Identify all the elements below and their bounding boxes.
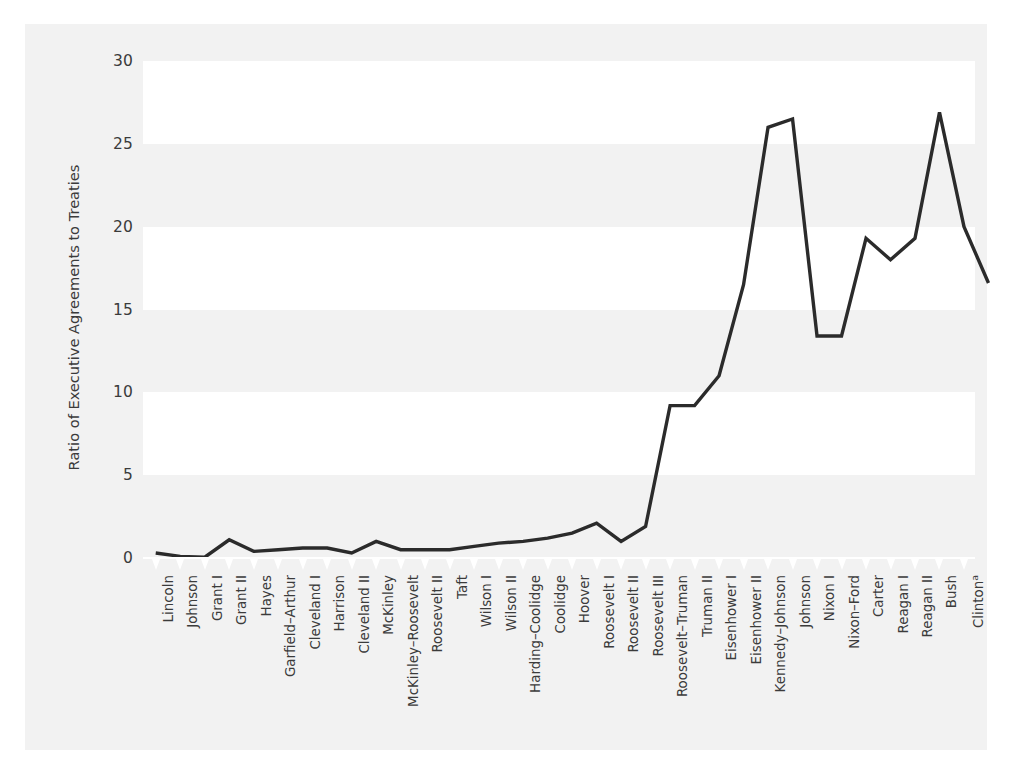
x-axis-tick-label: Cleveland I bbox=[308, 575, 323, 650]
x-axis-tick-label: Kennedy–Johnson bbox=[773, 575, 788, 692]
x-axis-tick-label: Cleveland II bbox=[357, 575, 372, 654]
x-axis-tick-label: Johnson bbox=[798, 575, 813, 628]
x-axis-tick-mark bbox=[887, 559, 895, 570]
x-axis-tick-mark bbox=[666, 559, 674, 570]
footnote-marker: a bbox=[969, 575, 980, 581]
x-axis-tick-mark bbox=[642, 559, 650, 570]
x-axis-tick-mark bbox=[960, 559, 968, 570]
x-axis-tick-mark bbox=[838, 559, 846, 570]
x-axis-tick-mark bbox=[250, 559, 258, 570]
x-axis-tick-mark bbox=[813, 559, 821, 570]
x-axis-tick-mark bbox=[544, 559, 552, 570]
x-axis-tick-label: Reagan II bbox=[920, 575, 935, 638]
x-axis-tick-mark bbox=[470, 559, 478, 570]
x-axis-tick-label: Roosevelt III bbox=[651, 575, 666, 657]
x-axis-tick-label: Eisenhower II bbox=[749, 575, 764, 664]
x-axis-tick-mark bbox=[176, 559, 184, 570]
x-axis-tick-label: McKinley–Roosevelt bbox=[406, 575, 421, 707]
y-axis-tick-label: 30 bbox=[73, 52, 133, 70]
x-axis-tick-label: Grant I bbox=[210, 575, 225, 621]
x-axis-tick-label: Bush bbox=[944, 575, 959, 608]
y-axis-tick-label: 10 bbox=[73, 383, 133, 401]
x-axis-tick-mark bbox=[935, 559, 943, 570]
x-axis-tick-mark bbox=[495, 559, 503, 570]
x-axis-tick-label: Wilson I bbox=[479, 575, 494, 627]
x-axis-tick-mark bbox=[617, 559, 625, 570]
x-axis-tick-mark bbox=[911, 559, 919, 570]
x-axis-tick-mark bbox=[274, 559, 282, 570]
x-axis-tick-label: Harding–Coolidge bbox=[528, 575, 543, 693]
x-axis-tick-label: Harrison bbox=[332, 575, 347, 631]
y-axis-tick-label: 0 bbox=[73, 549, 133, 567]
x-axis-tick-mark bbox=[715, 559, 723, 570]
x-axis-tick-label: Grant II bbox=[234, 575, 249, 625]
x-axis-tick-mark bbox=[862, 559, 870, 570]
x-axis-tick-label: Garfield–Arthur bbox=[283, 575, 298, 677]
x-axis-tick-mark bbox=[421, 559, 429, 570]
chart-figure: 051015202530 Ratio of Executive Agreemen… bbox=[25, 24, 987, 750]
x-axis-tick-mark bbox=[691, 559, 699, 570]
x-axis-tick-mark bbox=[152, 559, 160, 570]
y-axis-tick-label: 20 bbox=[73, 218, 133, 236]
x-axis-tick-label: Roosevelt II bbox=[626, 575, 641, 653]
x-axis-tick-mark bbox=[519, 559, 527, 570]
x-axis-tick-mark bbox=[789, 559, 797, 570]
x-axis-tick-mark bbox=[446, 559, 454, 570]
y-axis-label-wrap: Ratio of Executive Agreements to Treatie… bbox=[37, 61, 61, 558]
series-line-chart bbox=[143, 61, 975, 558]
x-axis-tick-mark bbox=[323, 559, 331, 570]
x-axis-tick-mark bbox=[372, 559, 380, 570]
plot-area bbox=[143, 61, 975, 558]
x-axis-ticks: LincolnJohnsonGrant IGrant IIHayesGarfie… bbox=[143, 559, 975, 759]
x-axis-tick-mark bbox=[764, 559, 772, 570]
x-axis-tick-mark bbox=[397, 559, 405, 570]
x-axis-tick-label: Wilson II bbox=[504, 575, 519, 631]
y-axis-tick-label: 15 bbox=[73, 301, 133, 319]
x-axis-tick-label: Lincoln bbox=[161, 575, 176, 622]
x-axis-tick-mark bbox=[225, 559, 233, 570]
x-axis-tick-label: Johnson bbox=[185, 575, 200, 628]
x-axis-tick-mark bbox=[568, 559, 576, 570]
x-axis-tick-label: Taft bbox=[455, 575, 470, 599]
x-axis-tick-label: Roosevelt–Truman bbox=[675, 575, 690, 697]
x-axis-tick-label: Roosevelt I bbox=[602, 575, 617, 649]
x-axis-tick-mark bbox=[740, 559, 748, 570]
x-axis-tick-mark bbox=[348, 559, 356, 570]
y-axis-label: Ratio of Executive Agreements to Treatie… bbox=[65, 68, 82, 568]
x-axis-tick-mark bbox=[299, 559, 307, 570]
x-axis-tick-mark bbox=[201, 559, 209, 570]
y-axis-tick-label: 25 bbox=[73, 135, 133, 153]
x-axis-tick-label: Clintona bbox=[969, 575, 986, 628]
x-axis-tick-label: Roosevelt II bbox=[430, 575, 445, 653]
x-axis-tick-mark bbox=[593, 559, 601, 570]
x-axis-tick-label: Truman II bbox=[700, 575, 715, 637]
x-axis-tick-label: Nixon I bbox=[822, 575, 837, 621]
x-axis-tick-label: Carter bbox=[871, 575, 886, 617]
x-axis-tick-label: Hoover bbox=[577, 575, 592, 623]
x-axis-tick-label: Coolidge bbox=[553, 575, 568, 633]
series-line bbox=[156, 112, 989, 557]
x-axis-tick-label: Nixon–Ford bbox=[847, 575, 862, 649]
x-axis-tick-label: McKinley bbox=[381, 575, 396, 635]
x-axis-tick-label: Reagan I bbox=[896, 575, 911, 634]
x-axis-tick-label: Eisenhower I bbox=[724, 575, 739, 660]
x-axis-tick-label: Hayes bbox=[259, 575, 274, 616]
y-axis-tick-label: 5 bbox=[73, 466, 133, 484]
